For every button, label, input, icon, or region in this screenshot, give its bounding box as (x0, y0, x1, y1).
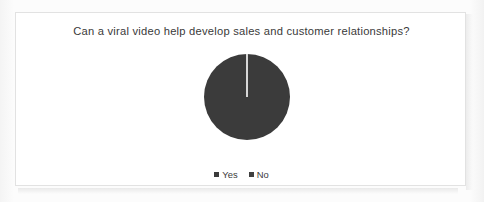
legend-swatch-icon-no (249, 172, 254, 177)
legend-label-no: No (257, 169, 269, 180)
legend-swatch-icon-yes (214, 172, 219, 177)
pie-chart (201, 51, 293, 143)
chart-legend: Yes No (16, 169, 467, 180)
pie-chart-area (16, 51, 467, 143)
legend-label-yes: Yes (222, 169, 237, 180)
legend-item-no[interactable]: No (249, 169, 269, 180)
chart-frame: Can a viral video help develop sales and… (15, 12, 466, 186)
chart-title: Can a viral video help develop sales and… (16, 25, 467, 37)
scan-shadow-bottom (18, 188, 458, 194)
scan-shadow-right (466, 14, 473, 190)
legend-item-yes[interactable]: Yes (214, 169, 237, 180)
